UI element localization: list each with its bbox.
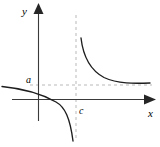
y-axis-label: y	[22, 2, 27, 18]
graph-canvas	[0, 0, 160, 147]
hyperbola-left-branch	[2, 87, 73, 142]
x-axis-arrow-icon	[144, 95, 156, 105]
hyperbola-figure: y x a c	[0, 0, 160, 147]
y-axis-arrow-icon	[34, 3, 44, 14]
x-axis-label: x	[148, 104, 153, 120]
hyperbola-right-branch	[81, 38, 150, 83]
horizontal-asymptote-label: a	[26, 70, 31, 86]
vertical-asymptote-label: c	[79, 101, 83, 117]
